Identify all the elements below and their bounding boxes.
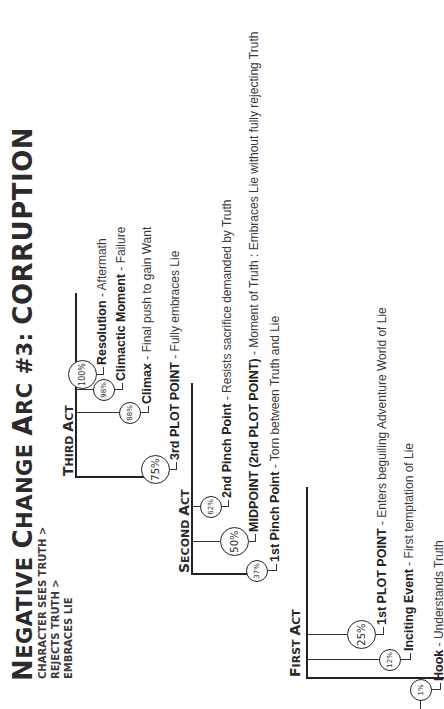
- climactic-moment-percent-circle: 98%: [93, 379, 115, 401]
- hook-connector: [420, 701, 421, 709]
- climax-label: Climax - Final push to gain Want: [140, 227, 154, 404]
- resolution-percent-circle: 100%: [68, 360, 97, 389]
- first-plot-point-label: 1st PLOT POINT - Enters beguiling Advent…: [375, 307, 389, 625]
- climactic-moment-connector: [76, 389, 93, 390]
- climactic-moment-label: Climactic Moment - Failure: [114, 227, 128, 381]
- second-pinch-point-percent-circle: 62%: [200, 496, 222, 518]
- second-pinch-point-connector: [192, 506, 200, 507]
- third-plot-point-label: 3rd PLOT POINT - Fully embraces Lie: [168, 251, 182, 460]
- subtitle-line-1: CHARACTER SEES TRUTH >: [37, 527, 48, 679]
- subtitle-line-3: EMBRACES LIE: [63, 597, 74, 679]
- third-act-label: THIRD ACT: [60, 405, 76, 476]
- story-arc-diagram: NEGATIVE CHANGE ARC #3: CORRUPTION CHARA…: [0, 0, 444, 709]
- climax-connector: [76, 412, 119, 413]
- subtitle-line-2: REJECTS TRUTH >: [50, 579, 61, 679]
- first-pinch-point-percent-circle: 37%: [246, 560, 268, 582]
- second-act-line: [191, 383, 193, 575]
- second-act-label: SECOND ACT: [176, 489, 192, 573]
- resolution-label: Resolution - Aftermath: [95, 238, 109, 365]
- diagram-title: NEGATIVE CHANGE ARC #3: CORRUPTION: [8, 127, 38, 681]
- midpoint-connector: [192, 541, 220, 542]
- midpoint-label: MIDPOINT (2nd PLOT POINT) - Moment of Tr…: [247, 32, 261, 532]
- inciting-event-percent-circle: 12%: [379, 649, 401, 671]
- hook-label: Hook - Understands Truth: [432, 540, 444, 681]
- first-act-label: FIRST ACT: [287, 609, 303, 677]
- first-plot-point-connector: [307, 634, 347, 635]
- first-pinch-point-label: 1st Pinch Point - Torn between Truth and…: [268, 316, 282, 562]
- second-pinch-point-label: 2nd Pinch Point - Resists sacrifice dema…: [220, 199, 234, 498]
- first-act-line: [306, 487, 308, 679]
- climax-percent-circle: 88%: [119, 402, 141, 424]
- hook-percent-circle: 1%: [410, 679, 432, 701]
- inciting-event-label: Inciting Event - First temptation of Lie: [402, 443, 416, 651]
- inciting-event-connector: [307, 659, 379, 660]
- midpoint-percent-circle: 50%: [220, 527, 249, 556]
- first-plot-point-percent-circle: 25%: [347, 620, 376, 649]
- third-plot-point-percent-circle: 75%: [141, 455, 170, 484]
